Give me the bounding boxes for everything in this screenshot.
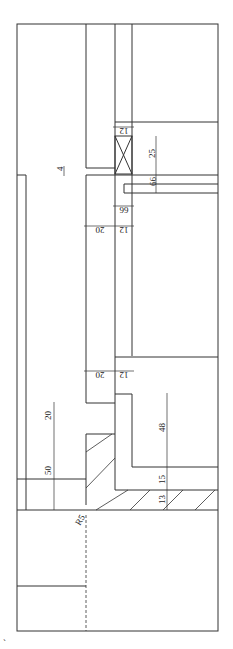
- dim-12a: 12: [120, 225, 129, 235]
- dim-25: 25: [147, 149, 157, 159]
- dim-48: 48: [157, 423, 167, 433]
- outer-frame: [17, 24, 218, 631]
- radius-label: R5: [73, 512, 87, 527]
- dim-6-6b: 66: [119, 205, 129, 215]
- dim-20a: 20: [95, 225, 105, 235]
- dim-15: 15: [157, 475, 167, 485]
- dim-13: 13: [157, 495, 167, 505]
- section-drawing: 12 25 66 4 66 20 12 20 12 20 50 48 15 13…: [0, 0, 233, 649]
- dim-50: 50: [43, 466, 53, 476]
- hatch: [86, 434, 215, 510]
- dim-4: 4: [55, 166, 65, 171]
- dim-20c: 20: [43, 411, 53, 421]
- corner-mark: `: [3, 638, 6, 648]
- dim-6-6: 66: [148, 177, 158, 187]
- dim-12-top: 12: [120, 126, 129, 136]
- dim-12b: 12: [120, 370, 129, 380]
- dim-20b: 20: [95, 370, 105, 380]
